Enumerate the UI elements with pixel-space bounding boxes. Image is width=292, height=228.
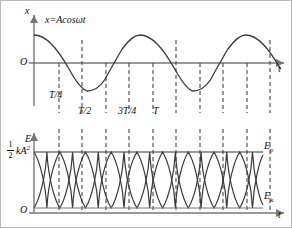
ek-subscript: k — [270, 196, 274, 204]
tick-label-quarter-period: T/4 — [49, 89, 62, 100]
top-x-axis-label: t — [278, 63, 281, 74]
tick-label-three-quarter-period: 3T/4 — [118, 105, 136, 116]
tick-label-full-period: T — [153, 105, 159, 116]
ep-subscript: p — [270, 146, 274, 154]
ka-exponent: 2 — [27, 144, 31, 152]
potential-energy-label: Ep — [264, 140, 274, 154]
top-origin-label: O — [20, 56, 27, 67]
figure-canvas — [1, 1, 292, 228]
displacement-equation-label: x=Acosωt — [45, 14, 85, 25]
fraction-denominator: 2 — [8, 152, 14, 160]
spring-energy-expression: kA2 — [16, 144, 30, 156]
max-energy-level-label: 1 2 kA2 — [7, 141, 30, 160]
bottom-origin-label: O — [20, 204, 27, 215]
one-half-fraction: 1 2 — [7, 141, 14, 160]
fraction-numerator: 1 — [8, 141, 14, 149]
bottom-x-axis-label: t — [278, 209, 281, 220]
top-plot-gridlines — [59, 40, 270, 113]
top-y-axis-label: x — [25, 5, 29, 16]
kinetic-energy-label: Ek — [264, 190, 274, 204]
ka-text: kA — [16, 146, 27, 157]
shm-energy-figure: x x=Acosωt O t T/4 T/2 3T/4 T E O t 1 2 … — [0, 0, 292, 228]
bottom-plot-gridlines — [59, 129, 270, 213]
tick-label-half-period: T/2 — [78, 105, 91, 116]
top-plot-axes — [29, 15, 284, 106]
